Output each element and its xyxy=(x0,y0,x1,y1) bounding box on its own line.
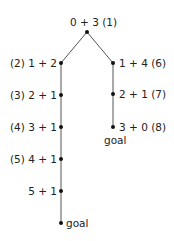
node-n3 xyxy=(59,93,63,97)
node-goal-left xyxy=(59,221,63,225)
label-n6: 1 + 4 (6) xyxy=(119,57,166,69)
node-n2 xyxy=(59,61,63,65)
node-n6 xyxy=(111,61,115,65)
label-n5: (5) 4 + 1 xyxy=(10,153,57,165)
label-n8: 3 + 0 (8) xyxy=(119,121,166,133)
edge-root-n2 xyxy=(61,32,87,63)
node-root xyxy=(85,30,89,34)
label-root: 0 + 3 (1) xyxy=(70,16,117,28)
label-n3: (3) 2 + 1 xyxy=(10,89,57,101)
label-n7: 2 + 1 (7) xyxy=(119,88,166,100)
edge-root-n6 xyxy=(87,32,113,63)
label-n5b: 5 + 1 xyxy=(28,185,57,197)
label-goal-left: goal xyxy=(66,217,88,229)
node-n5b xyxy=(59,189,63,193)
label-n4: (4) 3 + 1 xyxy=(10,121,57,133)
node-n4 xyxy=(59,125,63,129)
label-goal-right: goal xyxy=(104,134,126,146)
node-n7 xyxy=(111,92,115,96)
label-n2: (2) 1 + 2 xyxy=(10,57,57,69)
node-n8 xyxy=(111,125,115,129)
node-n5 xyxy=(59,157,63,161)
